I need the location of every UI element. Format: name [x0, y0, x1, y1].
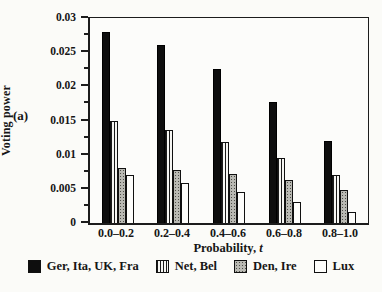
x-axis-title: Probability, t — [88, 241, 368, 256]
legend-label: Net, Bel — [175, 259, 217, 274]
bar-gray-stipple — [118, 168, 126, 223]
y-axis: 00.0050.010.0150.020.0250.03 — [0, 17, 88, 222]
bar-vertical-stripes — [110, 121, 118, 224]
y-tick-label: 0.02 — [16, 79, 76, 91]
y-tick-label: 0 — [16, 216, 76, 228]
x-axis-title-variable: t — [259, 241, 262, 255]
bar-white-outline — [126, 175, 134, 223]
bar-solid-black — [157, 45, 165, 223]
bar-white-outline — [293, 202, 301, 223]
bar-vertical-stripes — [165, 130, 173, 223]
bar-gray-stipple — [285, 180, 293, 223]
bar-solid-black — [324, 141, 332, 223]
y-tick-major — [81, 16, 88, 18]
bar-white-outline — [181, 183, 189, 223]
y-tick-major — [81, 221, 88, 223]
bar-group — [90, 18, 146, 223]
legend-swatch-gray-stipple — [234, 260, 247, 273]
legend-item: Den, Ire — [234, 259, 297, 274]
legend: Ger, Ita, UK, FraNet, BelDen, IreLux — [0, 259, 382, 274]
y-tick-major — [81, 84, 88, 86]
legend-label: Den, Ire — [253, 259, 297, 274]
legend-swatch-white-outline — [314, 260, 327, 273]
legend-swatch-solid-black — [28, 260, 41, 273]
bar-solid-black — [269, 102, 277, 223]
y-tick-label: 0.025 — [16, 45, 76, 57]
x-category-label: 0.0–0.2 — [88, 226, 144, 241]
y-tick-major — [81, 187, 88, 189]
y-tick-label: 0.03 — [16, 11, 76, 23]
bar-gray-stipple — [173, 170, 181, 223]
x-axis: 0.0–0.20.2–0.40.4–0.60.6–0.80.8–1.0 — [88, 226, 368, 241]
bar-white-outline — [237, 192, 245, 223]
bar-vertical-stripes — [221, 142, 229, 223]
bar-gray-stipple — [229, 174, 237, 223]
legend-item: Ger, Ita, UK, Fra — [28, 259, 139, 274]
legend-swatch-vertical-stripes — [156, 260, 169, 273]
plot-area — [88, 17, 369, 225]
bar-vertical-stripes — [332, 175, 340, 223]
bar-group — [146, 18, 202, 223]
x-axis-title-text: Probability, — [193, 241, 256, 255]
bar-group — [257, 18, 313, 223]
x-category-label: 0.4–0.6 — [200, 226, 256, 241]
y-tick-label: 0.01 — [16, 148, 76, 160]
bar-solid-black — [213, 69, 221, 223]
y-tick-major — [81, 119, 88, 121]
bar-white-outline — [348, 212, 356, 223]
legend-item: Net, Bel — [156, 259, 217, 274]
bar-group — [201, 18, 257, 223]
legend-item: Lux — [314, 259, 355, 274]
bar-gray-stipple — [340, 190, 348, 223]
bar-vertical-stripes — [277, 158, 285, 223]
x-category-label: 0.6–0.8 — [256, 226, 312, 241]
x-category-label: 0.2–0.4 — [144, 226, 200, 241]
legend-label: Ger, Ita, UK, Fra — [47, 259, 139, 274]
bar-group — [312, 18, 368, 223]
y-tick-label: 0.005 — [16, 182, 76, 194]
figure-bar-chart: (a) Voting power 00.0050.010.0150.020.02… — [0, 0, 382, 292]
y-tick-major — [81, 50, 88, 52]
legend-label: Lux — [333, 259, 355, 274]
y-tick-label: 0.015 — [16, 114, 76, 126]
y-tick-major — [81, 153, 88, 155]
bar-solid-black — [102, 32, 110, 223]
x-category-label: 0.8–1.0 — [312, 226, 368, 241]
